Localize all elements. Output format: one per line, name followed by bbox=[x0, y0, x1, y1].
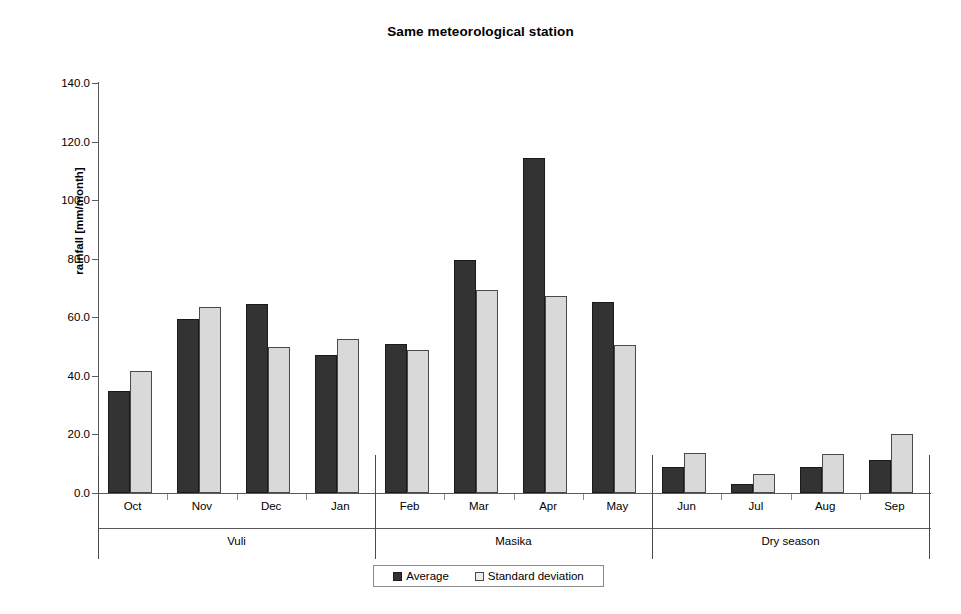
chart-legend: AverageStandard deviation bbox=[373, 565, 604, 587]
y-axis-tick bbox=[92, 376, 99, 377]
x-axis-month-label: Aug bbox=[791, 500, 860, 512]
bar-stddev-feb bbox=[407, 350, 429, 493]
y-axis-tick-label: 100.0 bbox=[30, 194, 90, 206]
y-axis-tick-label: 80.0 bbox=[30, 253, 90, 265]
y-axis-tick bbox=[92, 83, 99, 84]
y-axis-tick-label: 140.0 bbox=[30, 77, 90, 89]
bar-average-jan bbox=[315, 355, 337, 493]
season-label-dry-season: Dry season bbox=[652, 535, 929, 547]
bar-average-jun bbox=[662, 467, 684, 493]
x-axis-minor-tick bbox=[167, 494, 168, 500]
legend-entry-avg: Average bbox=[393, 570, 449, 582]
x-axis-month-label: Nov bbox=[167, 500, 236, 512]
y-axis-tick-label: 120.0 bbox=[30, 136, 90, 148]
x-axis-minor-tick bbox=[583, 494, 584, 500]
month-axis-band: OctNovDecJanFebMarAprMayJunJulAugSep bbox=[98, 494, 931, 528]
y-axis-tick-label: 0.0 bbox=[30, 487, 90, 499]
x-axis-month-label: Sep bbox=[860, 500, 929, 512]
x-axis-minor-tick bbox=[860, 494, 861, 500]
legend-swatch-avg-icon bbox=[393, 572, 402, 581]
bar-stddev-aug bbox=[822, 454, 844, 493]
bar-average-dec bbox=[246, 304, 268, 493]
y-axis-tick bbox=[92, 434, 99, 435]
legend-swatch-std-icon bbox=[475, 572, 484, 581]
x-axis-month-label: Jan bbox=[306, 500, 375, 512]
x-axis-month-label: Jul bbox=[721, 500, 790, 512]
x-axis-month-label: Mar bbox=[444, 500, 513, 512]
y-axis-tick bbox=[92, 317, 99, 318]
y-axis-tick-label: 40.0 bbox=[30, 370, 90, 382]
legend-entry-std: Standard deviation bbox=[475, 570, 584, 582]
bar-stddev-dec bbox=[268, 347, 290, 493]
y-axis-tick bbox=[92, 142, 99, 143]
group-separator-line bbox=[98, 455, 99, 559]
x-axis-month-label: Apr bbox=[514, 500, 583, 512]
x-axis-month-label: Jun bbox=[652, 500, 721, 512]
x-axis-month-label: May bbox=[583, 500, 652, 512]
y-axis-tick bbox=[92, 200, 99, 201]
bar-average-jul bbox=[731, 484, 753, 493]
legend-label: Average bbox=[406, 570, 449, 582]
season-label-masika: Masika bbox=[375, 535, 652, 547]
bar-stddev-nov bbox=[199, 307, 221, 493]
x-axis-month-label: Feb bbox=[375, 500, 444, 512]
x-axis-minor-tick bbox=[791, 494, 792, 500]
group-separator-line bbox=[929, 455, 930, 559]
bar-average-nov bbox=[177, 319, 199, 493]
bar-average-aug bbox=[800, 467, 822, 493]
legend-label: Standard deviation bbox=[488, 570, 584, 582]
x-axis-minor-tick bbox=[306, 494, 307, 500]
group-separator-line bbox=[375, 455, 376, 559]
bar-stddev-jan bbox=[337, 339, 359, 493]
group-separator-line bbox=[652, 455, 653, 559]
bar-average-apr bbox=[523, 158, 545, 493]
bar-average-oct bbox=[108, 391, 130, 493]
x-axis-minor-tick bbox=[237, 494, 238, 500]
x-axis-month-label: Oct bbox=[98, 500, 167, 512]
season-label-vuli: Vuli bbox=[98, 535, 375, 547]
bar-average-mar bbox=[454, 260, 476, 493]
x-axis-minor-tick bbox=[514, 494, 515, 500]
bar-average-feb bbox=[385, 344, 407, 493]
bar-stddev-jul bbox=[753, 474, 775, 493]
y-axis-tick-label: 60.0 bbox=[30, 311, 90, 323]
y-axis-tick-label: 20.0 bbox=[30, 428, 90, 440]
bar-stddev-oct bbox=[130, 371, 152, 493]
x-axis-month-label: Dec bbox=[237, 500, 306, 512]
x-axis-minor-tick bbox=[721, 494, 722, 500]
y-axis-tick-labels: 0.020.040.060.080.0100.0120.0140.0 bbox=[28, 83, 90, 493]
bar-average-sep bbox=[869, 460, 891, 493]
y-axis-tick bbox=[92, 259, 99, 260]
bar-stddev-sep bbox=[891, 434, 913, 493]
x-axis-minor-tick bbox=[444, 494, 445, 500]
bar-average-may bbox=[592, 302, 614, 493]
plot-area bbox=[99, 83, 930, 493]
bar-stddev-apr bbox=[545, 296, 567, 493]
bar-stddev-mar bbox=[476, 290, 498, 493]
bar-stddev-may bbox=[614, 345, 636, 493]
bar-stddev-jun bbox=[684, 453, 706, 493]
season-axis-band: VuliMasikaDry season bbox=[98, 529, 931, 559]
chart-title: Same meteorological station bbox=[0, 24, 961, 39]
